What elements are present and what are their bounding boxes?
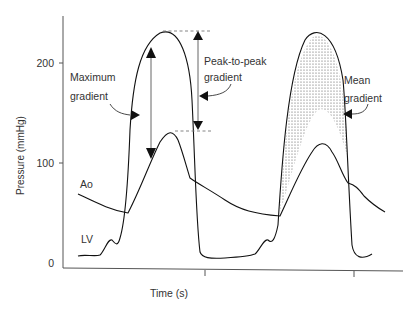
maximum-gradient-label-line1: Maximum — [70, 71, 116, 83]
pressure-gradient-diagram: 200 100 0 Pressure (mmHg) Time (s) Ao LV… — [0, 0, 418, 312]
peak-to-peak-gradient-arrow — [193, 31, 203, 130]
diagram-canvas — [0, 0, 418, 312]
x-axis-label: Time (s) — [150, 287, 188, 299]
maximum-gradient-arrow — [146, 47, 156, 159]
y-axis-label: Pressure (mmHg) — [15, 116, 26, 195]
mean-gradient-label-line2: gradient — [344, 92, 382, 104]
aorta-label: Ao — [80, 178, 93, 190]
aortic-pressure-curve — [78, 133, 385, 216]
y-tick-0: 0 — [24, 257, 54, 269]
lv-label: LV — [81, 233, 93, 245]
maximum-gradient-label-line2: gradient — [70, 90, 108, 102]
y-tick-100: 100 — [24, 157, 54, 169]
peak-pointer-head-icon — [199, 91, 208, 101]
mean-gradient-label-line1: Mean — [344, 74, 370, 86]
mean-gradient-shaded-area — [280, 36, 348, 212]
y-tick-200: 200 — [24, 57, 54, 69]
peak-to-peak-label-line1: Peak-to-peak — [204, 55, 266, 67]
peak-to-peak-label-line2: gradient — [204, 71, 242, 83]
maximum-pointer-head-icon — [131, 110, 140, 120]
